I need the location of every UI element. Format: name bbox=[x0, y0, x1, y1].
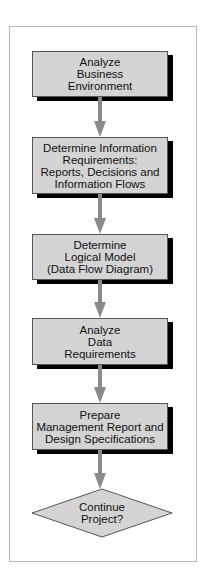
step-label: Determine Information Requirements: Repo… bbox=[41, 142, 160, 190]
arrow-down-icon bbox=[94, 365, 106, 403]
step-prepare-management-report: Prepare Management Report and Design Spe… bbox=[32, 403, 168, 450]
step-label: Analyze Business Environment bbox=[68, 56, 133, 92]
step-label: Analyze Data Requirements bbox=[64, 324, 136, 360]
arrow-down-icon bbox=[94, 450, 106, 489]
arrow-down-icon bbox=[94, 97, 106, 137]
step-label: Determine Logical Model (Data Flow Diagr… bbox=[47, 239, 153, 275]
arrow-down-icon bbox=[94, 280, 106, 318]
step-label: Prepare Management Report and Design Spe… bbox=[36, 409, 163, 445]
step-determine-logical-model: Determine Logical Model (Data Flow Diagr… bbox=[32, 234, 168, 280]
step-analyze-data-requirements: Analyze Data Requirements bbox=[32, 318, 168, 365]
decision-label: Continue Project? bbox=[31, 488, 173, 538]
arrow-down-icon bbox=[94, 194, 106, 234]
step-analyze-business-environment: Analyze Business Environment bbox=[32, 51, 168, 97]
step-determine-information-requirements: Determine Information Requirements: Repo… bbox=[32, 137, 168, 194]
